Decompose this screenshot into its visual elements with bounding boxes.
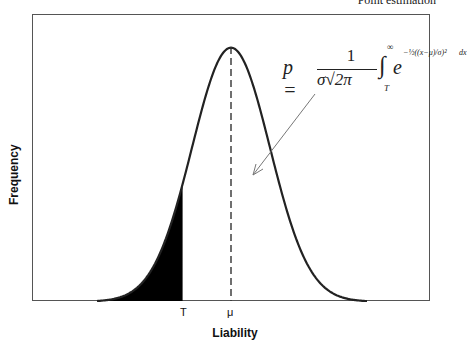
threshold-shaded-area <box>97 184 183 301</box>
integral-icon: ∫ <box>379 52 386 79</box>
formula-e: e <box>393 56 402 79</box>
formula-lower: T <box>384 83 389 93</box>
tick-threshold: T <box>180 306 187 318</box>
tick-mean: μ <box>227 306 233 318</box>
formula-exponent: −½((x−μ)/σ)² <box>403 48 447 57</box>
formula-p: p = <box>283 56 297 102</box>
formula-upper: ∞ <box>387 42 393 52</box>
x-axis-label: Liability <box>200 326 270 340</box>
formula-numerator: 1 <box>331 46 371 66</box>
formula-dx: dx <box>459 48 467 57</box>
formula-denominator: σ√2π <box>317 70 352 90</box>
y-axis-label: Frequency <box>7 145 21 205</box>
formula-arrow <box>253 94 315 175</box>
